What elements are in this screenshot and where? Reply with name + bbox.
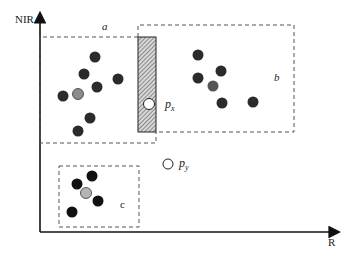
region-b: b xyxy=(138,25,294,132)
cluster-b-points xyxy=(193,50,259,109)
axes: NIR R xyxy=(15,13,338,248)
region-a-label: a xyxy=(102,20,108,32)
classification-diagram: NIR R a b c xyxy=(0,0,359,257)
y-axis-label: NIR xyxy=(15,13,35,25)
region-b-label: b xyxy=(274,71,280,83)
x-axis-label: R xyxy=(328,236,336,248)
point-py-label: py xyxy=(178,156,189,172)
cluster-c-points xyxy=(67,171,104,218)
overlap-region xyxy=(138,37,156,132)
point-py: py xyxy=(163,156,189,172)
point-px-label: px xyxy=(164,97,175,113)
cluster-a-points xyxy=(58,52,124,137)
region-c-label: c xyxy=(120,198,125,210)
